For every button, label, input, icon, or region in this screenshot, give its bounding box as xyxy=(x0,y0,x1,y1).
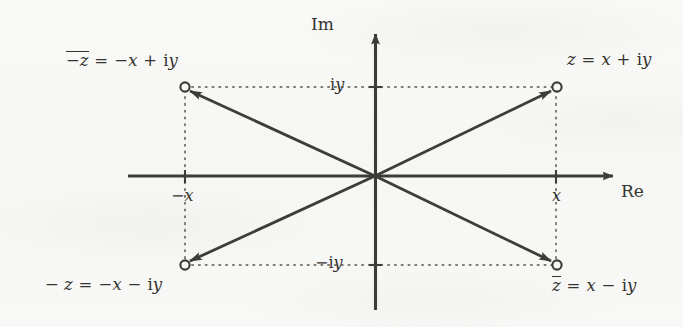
vector-to-minus-z-conjugate xyxy=(190,91,375,176)
imaginary-axis-label: Im xyxy=(311,16,334,33)
vector-to-z xyxy=(375,91,551,176)
tick-label-negative-real: −x xyxy=(171,188,193,204)
marker-minus-z xyxy=(180,260,189,269)
point-label-minus-z: − z = −x − iy xyxy=(45,277,162,294)
tick-label-negative-imag: −iy xyxy=(315,255,343,271)
marker-z xyxy=(552,82,561,91)
tick-label-positive-real: x xyxy=(552,188,561,204)
marker-minus-z-conjugate xyxy=(180,82,189,91)
tick-label-positive-imag: iy xyxy=(330,77,344,93)
figure-page: Im Re iy −iy −x x −z = −x + iy z = x + i… xyxy=(0,0,683,327)
marker-z-conjugate xyxy=(552,260,561,269)
point-label-z-conjugate: z = x − iy xyxy=(552,277,636,295)
axes xyxy=(128,34,613,310)
vector-to-z-conjugate xyxy=(375,176,551,261)
vector-to-minus-z xyxy=(190,176,375,261)
real-axis-label: Re xyxy=(621,183,644,200)
point-label-z: z = x + iy xyxy=(567,52,651,69)
point-label-minus-z-conjugate: −z = −x + iy xyxy=(66,52,178,70)
